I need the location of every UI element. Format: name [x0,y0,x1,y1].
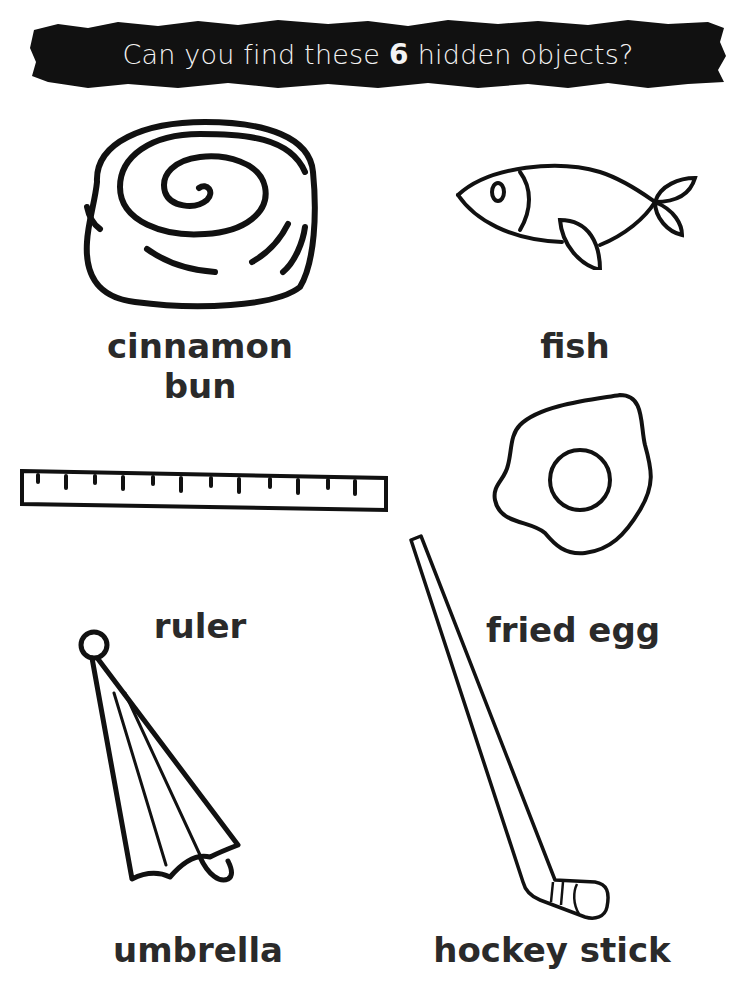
title-suffix: hidden objects? [418,39,634,70]
hockey-stick-icon [405,532,615,927]
title-banner: Can you find these 6 hidden objects? [28,18,728,90]
label-line-2: bun [80,366,320,406]
object-count: 6 [389,38,409,71]
label-hockey-stick: hockey stick [432,930,672,970]
title-prefix: Can you find these [122,39,380,70]
ruler-icon [18,468,390,518]
umbrella-icon [70,625,250,885]
page-title: Can you find these 6 hidden objects? [28,18,728,90]
cinnamon-bun-icon [75,112,325,312]
fish-icon [450,160,705,270]
label-line-1: cinnamon [80,326,320,366]
label-cinnamon-bun: cinnamon bun [80,326,320,406]
label-umbrella: umbrella [108,930,288,970]
label-fish: fish [490,326,660,366]
